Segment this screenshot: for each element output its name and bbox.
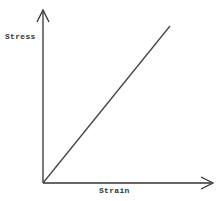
y-axis (37, 10, 49, 183)
y-axis-label: Stress (5, 32, 36, 41)
stress-strain-line (43, 26, 170, 183)
x-axis-label: Strain (99, 186, 130, 195)
stress-strain-diagram (0, 0, 219, 201)
